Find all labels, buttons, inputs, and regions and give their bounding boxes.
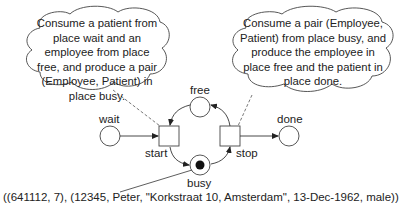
transition-start[interactable]: [159, 126, 179, 146]
arc-busy-stop: [211, 147, 230, 164]
place-wait-label: wait: [99, 113, 119, 125]
place-free-label: free: [190, 84, 210, 96]
arc-start-busy: [170, 147, 189, 165]
transition-stop-label: stop: [236, 147, 258, 159]
busy-token-value: ((641112, 7), (12345, Peter, "Korkstraat…: [3, 191, 399, 203]
start-callout-text: Consume a patient from place wait and an…: [33, 16, 161, 104]
transition-start-label: start: [145, 147, 167, 159]
place-busy-label: busy: [187, 177, 211, 189]
stop-callout-connector: [238, 95, 252, 126]
arc-free-start: [170, 105, 190, 125]
place-wait[interactable]: [100, 126, 120, 146]
place-free[interactable]: [190, 97, 210, 117]
place-done[interactable]: [279, 126, 299, 146]
stop-callout-text: Consume a pair (Employee, Patient) from …: [238, 16, 388, 89]
token-value-connector: [120, 170, 192, 192]
busy-token: [196, 161, 205, 170]
transition-stop[interactable]: [220, 126, 240, 146]
arc-stop-free: [211, 105, 230, 126]
place-done-label: done: [277, 113, 303, 125]
